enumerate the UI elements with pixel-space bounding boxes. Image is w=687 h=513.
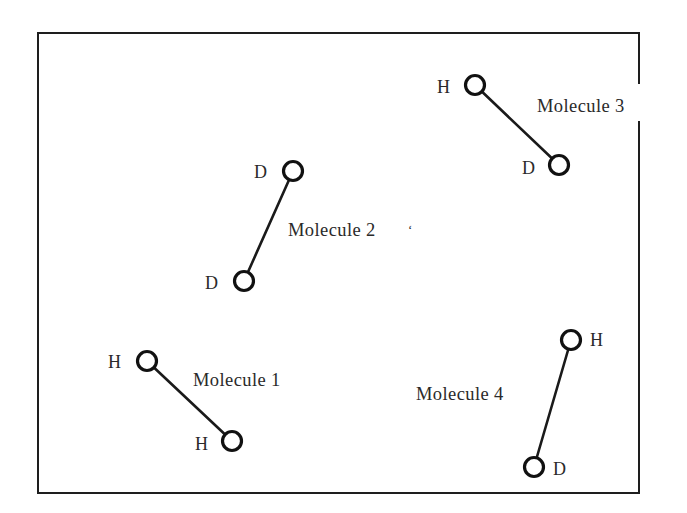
molecules-diagram: H H Molecule 1 D D Molecule 2 ‘ H D Mole… [0, 0, 687, 513]
atom-label: H [195, 434, 208, 454]
atom-h-icon [138, 352, 157, 371]
bond [244, 171, 293, 281]
atom-h-icon [466, 76, 485, 95]
atom-label: D [553, 459, 566, 479]
molecule-3: H D Molecule 3 [437, 76, 625, 179]
atom-d-icon [284, 162, 303, 181]
atom-d-icon [525, 458, 544, 477]
molecule-1: H H Molecule 1 [108, 352, 281, 455]
molecule-label: Molecule 1 [193, 370, 281, 390]
atom-label: H [108, 352, 121, 372]
atom-label: D [522, 158, 535, 178]
molecule-label: Molecule 2 [288, 220, 376, 240]
atom-d-icon [235, 272, 254, 291]
label-mark: ‘ [408, 222, 413, 237]
molecule-4: H D Molecule 4 [416, 330, 603, 479]
bond [534, 340, 571, 467]
atom-d-icon [550, 156, 569, 175]
atom-h-icon [223, 432, 242, 451]
atom-h-icon [562, 331, 581, 350]
atom-label: D [205, 273, 218, 293]
molecule-label: Molecule 4 [416, 384, 504, 404]
molecule-label: Molecule 3 [537, 96, 625, 116]
atom-label: H [590, 330, 603, 350]
atom-label: H [437, 77, 450, 97]
atom-label: D [254, 162, 267, 182]
molecule-2: D D Molecule 2 ‘ [205, 162, 413, 294]
